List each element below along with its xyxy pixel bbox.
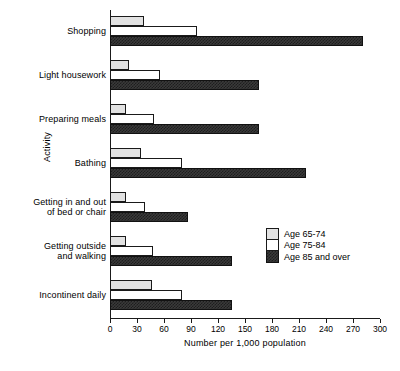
legend-item: Age 75-84 [266,240,350,252]
bar [110,124,259,134]
bar [110,70,160,80]
x-tick-label: 90 [186,324,195,334]
bar [110,290,182,300]
legend-item: Age 65-74 [266,228,350,240]
legend-swatch [266,228,279,240]
bar [110,280,152,290]
x-tick-label: 150 [238,324,252,334]
bar [110,158,182,168]
x-tick-mark [191,319,192,323]
bar [110,60,129,70]
x-tick-mark [110,319,111,323]
x-tick-label: 120 [211,324,225,334]
x-tick-label: 240 [319,324,333,334]
bar [110,16,144,26]
x-tick-label: 300 [373,324,387,334]
category-label: Bathing [75,158,106,169]
plot-area: 0306090120150180210240270300 [110,10,380,318]
category-label: Preparing meals [39,114,106,125]
bar [110,168,306,178]
category-label: Shopping [67,26,106,37]
x-tick-mark [326,319,327,323]
bar [110,26,197,36]
category-label: Light housework [39,70,106,81]
bar [110,300,232,310]
bar [110,256,232,266]
bar [110,202,145,212]
legend-label: Age 65-74 [284,229,326,239]
legend-swatch [266,240,279,252]
x-tick-mark [137,319,138,323]
x-tick-mark [353,319,354,323]
bar [110,36,363,46]
bar [110,80,259,90]
x-tick-mark [299,319,300,323]
x-tick-label: 60 [159,324,168,334]
x-axis-title: Number per 1,000 population [110,338,380,348]
legend-label: Age 85 and over [284,252,350,262]
bar [110,236,126,246]
x-tick-mark [218,319,219,323]
bar [110,212,188,222]
legend: Age 65-74Age 75-84Age 85 and over [266,228,350,263]
category-label: Incontinent daily [39,290,106,301]
bar-chart: Activity ShoppingLight houseworkPreparin… [0,0,400,371]
x-tick-label: 210 [292,324,306,334]
bar [110,192,126,202]
legend-label: Age 75-84 [284,240,326,250]
x-tick-label: 180 [265,324,279,334]
bar [110,148,141,158]
x-tick-mark [380,319,381,323]
x-tick-mark [245,319,246,323]
bar [110,114,154,124]
x-tick-label: 0 [108,324,113,334]
legend-swatch [266,251,279,263]
category-label: Getting outside and walking [44,241,106,262]
bar [110,246,153,256]
x-tick-mark [164,319,165,323]
bar [110,104,126,114]
legend-item: Age 85 and over [266,251,350,263]
category-label: Getting in and out of bed or chair [33,197,106,218]
x-tick-mark [272,319,273,323]
x-tick-label: 30 [132,324,141,334]
category-label-list: ShoppingLight houseworkPreparing mealsBa… [12,10,106,318]
x-tick-label: 270 [346,324,360,334]
